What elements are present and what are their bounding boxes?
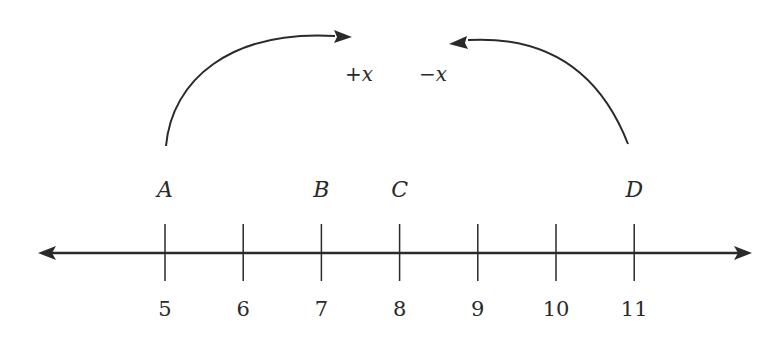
point-label-c: C [391, 177, 408, 202]
tick-label: 5 [158, 297, 171, 321]
point-label-d: D [624, 177, 643, 202]
tick-label: 11 [621, 297, 648, 321]
jump-arrowhead-plus-x-icon [334, 30, 352, 43]
tick-label: 7 [315, 297, 328, 321]
point-label-a: A [155, 177, 173, 202]
number-line-diagram: 567891011 ABCD +x −x [0, 0, 767, 337]
jump-label-minus-x: −x [419, 62, 447, 86]
point-label-b: B [312, 177, 329, 202]
jump-arc-plus-x [166, 36, 335, 146]
jump-arc-minus-x [468, 40, 628, 144]
tick-label: 8 [393, 297, 406, 321]
jump-label-plus-x: +x [345, 62, 373, 86]
tick-label: 9 [471, 297, 484, 321]
tick-label: 10 [543, 297, 570, 321]
tick-label: 6 [237, 297, 250, 321]
jump-arrowhead-minus-x-icon [449, 36, 468, 49]
